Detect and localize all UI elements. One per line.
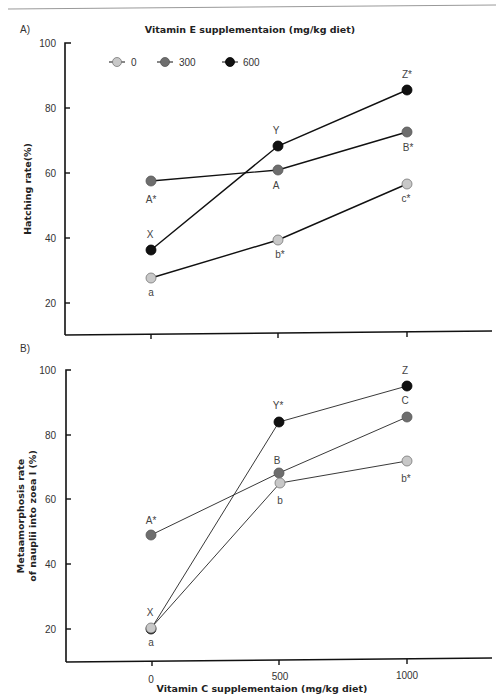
svg-text:60: 60 [45,494,57,505]
panel-a-point-600-500 [273,141,283,151]
svg-text:a: a [148,287,154,298]
svg-text:B*: B* [403,142,414,153]
svg-text:20: 20 [45,624,57,635]
svg-text:Y*: Y* [273,400,284,411]
panel-b-point-0-500 [275,478,285,488]
panel-a-y-tick-labels: 100 80 60 40 20 [39,38,56,309]
svg-text:c*: c* [402,193,411,204]
panel-a-title: Vitamin E supplementaion (mg/kg diet) [145,24,355,35]
panel-a-point-0-0 [146,273,156,283]
svg-text:b*: b* [401,473,411,484]
svg-text:X: X [147,229,154,240]
svg-text:X: X [147,607,154,618]
svg-text:60: 60 [45,168,57,179]
svg-text:500: 500 [272,671,289,682]
panel-a-point-600-0 [146,245,156,255]
svg-text:A: A [273,180,280,191]
panel-a-point-labels: a b* c* A* A B* X Y Z* [146,69,414,298]
legend-label-0: 0 [131,57,137,68]
panel-b-y-axis [66,370,71,662]
svg-text:100: 100 [39,365,56,376]
panel-a-point-300-1000 [402,127,412,137]
svg-text:40: 40 [45,559,57,570]
top-rule [8,5,496,9]
svg-text:Z: Z [402,365,408,376]
svg-text:b*: b* [275,249,285,260]
panel-a-point-300-0 [146,176,156,186]
panel-b-point-600-1000 [402,381,412,391]
svg-text:20: 20 [45,298,57,309]
svg-text:Z*: Z* [402,69,412,80]
figure: A) Vitamin E supplementaion (mg/kg diet)… [0,0,502,697]
panel-b-point-600-500 [274,417,284,427]
svg-text:A*: A* [146,194,157,205]
panel-b-point-300-1000 [402,412,412,422]
svg-text:A*: A* [146,515,157,526]
svg-text:a: a [148,637,154,648]
panel-b-point-0-1000 [402,456,412,466]
legend: 0 300 600 [109,57,260,68]
panel-b-markers [146,381,412,634]
panel-b-point-0-0 [146,623,156,633]
panel-b-point-labels: a b b* A* B C X Y* Z [146,365,411,648]
panel-a-y-axis-label: Hatching rate(%) [22,143,33,235]
svg-text:Metaamorphosis rate: Metaamorphosis rate [15,459,26,573]
panel-a-point-300-500 [273,165,283,175]
svg-text:100: 100 [39,38,56,49]
legend-label-300: 300 [179,57,196,68]
panel-a-point-600-1000 [402,85,412,95]
svg-text:80: 80 [45,103,57,114]
svg-text:Y: Y [273,125,280,136]
panel-a-y-axis [65,43,71,335]
panel-b-label: B) [20,343,30,354]
panel-b: B) 100 80 60 40 20 0 500 1000 Vitamin C … [15,343,492,694]
panel-b-point-300-0 [146,530,156,540]
legend-label-600: 600 [243,57,260,68]
svg-text:40: 40 [45,233,57,244]
svg-text:80: 80 [45,430,57,441]
svg-text:b: b [277,495,283,506]
panel-b-x-axis-label: Vitamin C supplementaion (mg/kg diet) [157,683,368,694]
svg-text:C: C [401,395,408,406]
panel-a-label: A) [20,24,30,35]
panel-b-y-axis-label: Metaamorphosis rate of nauplii into zoea… [15,450,38,581]
svg-text:of nauplii into zoea I (%): of nauplii into zoea I (%) [27,450,38,581]
svg-text:0: 0 [148,674,154,685]
svg-text:B: B [274,455,281,466]
svg-text:1000: 1000 [396,670,419,681]
legend-marker-0 [113,58,122,67]
legend-marker-600 [226,58,235,67]
panel-a: A) Vitamin E supplementaion (mg/kg diet)… [20,24,492,339]
panel-b-point-300-500 [274,468,284,478]
panel-b-y-tick-labels: 100 80 60 40 20 [39,365,56,635]
panel-a-point-0-1000 [402,179,412,189]
panel-a-line-0 [151,184,407,278]
panel-a-point-0-500 [273,235,283,245]
legend-marker-300 [161,58,170,67]
